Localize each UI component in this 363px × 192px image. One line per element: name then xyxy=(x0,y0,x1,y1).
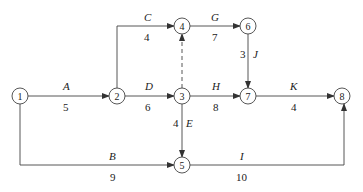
node-1-label: 1 xyxy=(18,91,23,102)
label-D: D xyxy=(144,80,153,92)
duration-I: 10 xyxy=(236,171,248,183)
label-B: B xyxy=(109,150,116,162)
node-3-label: 3 xyxy=(180,91,185,102)
duration-D: 6 xyxy=(145,101,151,113)
diagram-svg: 1 2 3 4 5 6 7 8 A 5 B 9 C 4 D 6 E 4 G 7 … xyxy=(0,0,363,192)
duration-G: 7 xyxy=(212,31,218,43)
label-K: K xyxy=(289,80,298,92)
duration-B: 9 xyxy=(110,171,116,183)
duration-H: 8 xyxy=(213,101,219,113)
node-7-label: 7 xyxy=(246,91,251,102)
label-G: G xyxy=(211,11,219,23)
duration-E: 4 xyxy=(173,117,179,129)
label-I: I xyxy=(239,150,245,162)
node-6-label: 6 xyxy=(246,21,251,32)
label-A: A xyxy=(62,80,70,92)
duration-K: 4 xyxy=(291,101,297,113)
network-diagram: 1 2 3 4 5 6 7 8 A 5 B 9 C 4 D 6 E 4 G 7 … xyxy=(0,0,363,192)
duration-J: 3 xyxy=(240,48,246,60)
node-2-label: 2 xyxy=(115,91,120,102)
node-5-label: 5 xyxy=(180,160,185,171)
label-J: J xyxy=(253,48,259,60)
label-H: H xyxy=(211,80,221,92)
node-8-label: 8 xyxy=(340,91,345,102)
node-4-label: 4 xyxy=(180,21,185,32)
duration-C: 4 xyxy=(144,31,150,43)
arrow-I xyxy=(190,104,344,165)
label-C: C xyxy=(144,11,152,23)
duration-A: 5 xyxy=(63,101,69,113)
label-E: E xyxy=(185,117,193,129)
arrow-B xyxy=(20,104,174,165)
